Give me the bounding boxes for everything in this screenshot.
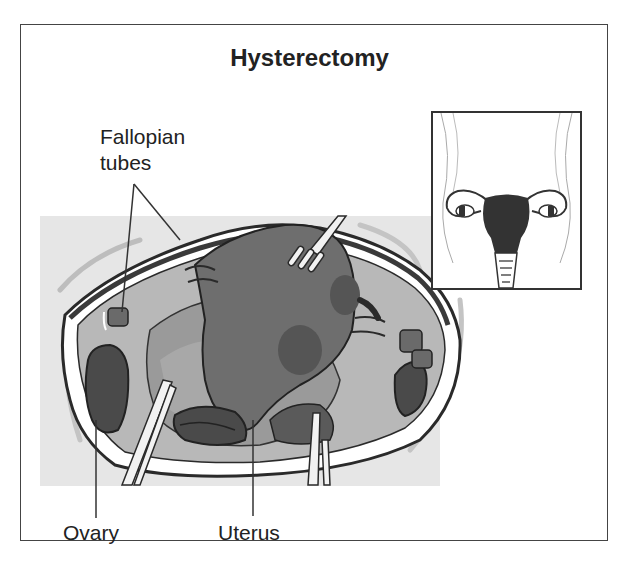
inset-uterus-diagram (431, 111, 582, 290)
label-fallopian-tubes-line2: tubes (100, 150, 185, 176)
uterus-frontal-icon (433, 113, 580, 288)
label-ovary: Ovary (63, 520, 119, 546)
label-fallopian-tubes-line1: Fallopian (100, 124, 185, 150)
left-ovary (86, 345, 129, 432)
label-fallopian-tubes: Fallopian tubes (100, 124, 185, 176)
cervix (174, 407, 247, 445)
label-uterus: Uterus (218, 520, 280, 546)
